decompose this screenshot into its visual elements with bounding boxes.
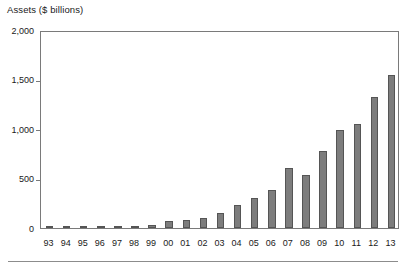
bar-94 <box>63 226 71 228</box>
bar-98 <box>131 226 139 228</box>
bar-05 <box>251 198 259 228</box>
bar-99 <box>148 225 156 228</box>
x-axis: 9394959697989900010203040506070809101112… <box>40 229 399 255</box>
y-axis-tick-label: 1,000 <box>11 126 34 135</box>
bar-07 <box>285 168 293 228</box>
y-axis-tick-label: 0 <box>29 225 34 234</box>
y-axis-tick-label: 1,500 <box>11 76 34 85</box>
bottom-rule-divider <box>8 261 398 262</box>
bar-03 <box>217 213 225 228</box>
bar-06 <box>268 190 276 228</box>
chart-figure: Assets ($ billions) 05001,0001,5002,000 … <box>0 0 405 269</box>
bar-12 <box>371 97 379 228</box>
bar-95 <box>80 226 88 228</box>
y-axis-tick-label: 2,000 <box>11 27 34 36</box>
bar-96 <box>97 226 105 228</box>
plot-area <box>40 31 399 229</box>
bar-04 <box>234 205 242 228</box>
y-axis: 05001,0001,5002,000 <box>0 0 40 269</box>
bar-00 <box>165 221 173 228</box>
bar-93 <box>46 226 54 228</box>
y-axis-tick-label: 500 <box>19 175 34 184</box>
bars-layer <box>41 32 398 228</box>
bar-10 <box>336 130 344 228</box>
bar-01 <box>183 220 191 228</box>
bar-13 <box>388 75 396 228</box>
bar-02 <box>200 218 208 228</box>
bar-09 <box>319 151 327 228</box>
bar-11 <box>354 124 362 228</box>
bar-97 <box>114 226 122 228</box>
bar-08 <box>302 175 310 228</box>
x-axis-tick-label: 13 <box>380 238 400 248</box>
